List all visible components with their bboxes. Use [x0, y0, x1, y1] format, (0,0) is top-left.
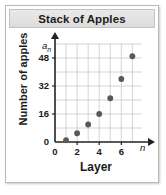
data-point [118, 76, 124, 82]
tick-marks [52, 58, 121, 145]
data-point [74, 130, 80, 136]
chart-canvas [6, 32, 158, 182]
x-axis-arrow-icon [148, 138, 155, 146]
chart-card: Stack of Apples Number of apples Layer a… [5, 5, 159, 183]
gridlines [55, 44, 142, 142]
plot-area: Number of apples Layer an n 0163248 0246 [6, 32, 158, 182]
data-point [96, 111, 102, 117]
chart-title-bar: Stack of Apples [9, 9, 155, 28]
page-title: Stack of Apples [38, 13, 125, 25]
data-point [129, 53, 135, 59]
y-axis-arrow-icon [51, 32, 59, 39]
axes [51, 32, 155, 146]
data-point [107, 95, 113, 101]
data-point [85, 122, 91, 128]
data-point [63, 137, 69, 143]
